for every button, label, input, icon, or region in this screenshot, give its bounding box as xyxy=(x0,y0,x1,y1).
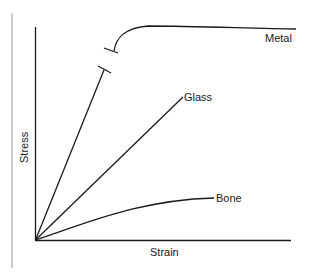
stress-strain-chart: Metal Glass Bone Strain Stress xyxy=(0,0,319,275)
glass-line xyxy=(36,97,184,240)
metal-break-mark-lower xyxy=(98,66,111,73)
y-axis-label: Stress xyxy=(18,131,30,163)
metal-label: Metal xyxy=(265,32,292,44)
bone-curve xyxy=(36,198,215,240)
bone-label: Bone xyxy=(216,192,242,204)
x-axis-label: Strain xyxy=(150,246,179,258)
glass-label: Glass xyxy=(184,91,213,103)
metal-break-mark-upper xyxy=(104,48,118,53)
metal-linear-segment xyxy=(36,70,105,240)
